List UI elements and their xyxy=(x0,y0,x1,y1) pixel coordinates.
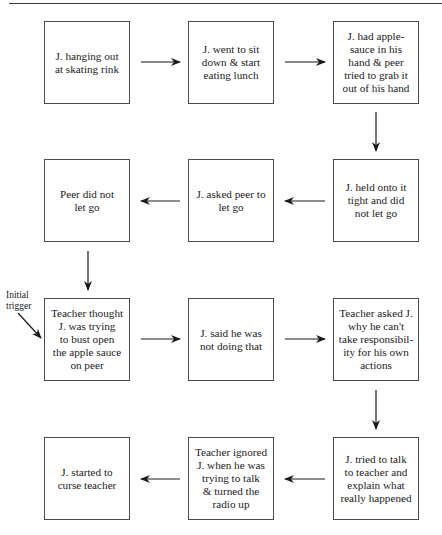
box-text: J. asked peer to let go xyxy=(194,188,269,214)
box-hanging-out: J. hanging out at skating rink xyxy=(44,21,130,104)
box-held-onto-it: J. held onto it tight and did not let go xyxy=(333,159,419,242)
box-applesauce-grab: J. had apple- sauce in his hand & peer t… xyxy=(333,21,419,104)
box-text: Teacher thought J. was trying to bust op… xyxy=(48,307,126,372)
box-peer-did-not-let-go: Peer did not let go xyxy=(44,159,130,242)
box-sit-down-lunch: J. went to sit down & start eating lunch xyxy=(188,21,274,104)
box-tried-to-talk: J. tried to talk to teacher and explain … xyxy=(333,437,419,520)
box-started-curse: J. started to curse teacher xyxy=(44,437,130,520)
box-text: Teacher asked J. why he can't take respo… xyxy=(336,307,416,372)
box-text: Teacher ignored J. when he was trying to… xyxy=(192,446,270,511)
box-teacher-ignored: Teacher ignored J. when he was trying to… xyxy=(188,437,274,520)
top-rule xyxy=(9,3,442,4)
box-text: J. held onto it tight and did not let go xyxy=(343,181,410,220)
box-said-not-doing: J. said he was not doing that xyxy=(188,298,274,381)
box-text: J. said he was not doing that xyxy=(197,327,265,353)
box-text: J. tried to talk to teacher and explain … xyxy=(337,453,414,505)
arrow-diagonal-icon xyxy=(18,313,41,338)
initial-trigger-label: Initial trigger xyxy=(6,290,31,312)
box-text: J. started to curse teacher xyxy=(55,466,120,492)
box-teacher-thought: Teacher thought J. was trying to bust op… xyxy=(44,298,130,381)
box-text: J. went to sit down & start eating lunch xyxy=(199,43,263,82)
box-asked-peer: J. asked peer to let go xyxy=(188,159,274,242)
box-text: J. hanging out at skating rink xyxy=(52,50,122,76)
box-text: J. had apple- sauce in his hand & peer t… xyxy=(340,30,413,95)
box-text: Peer did not let go xyxy=(57,188,117,214)
box-teacher-asked: Teacher asked J. why he can't take respo… xyxy=(333,298,419,381)
